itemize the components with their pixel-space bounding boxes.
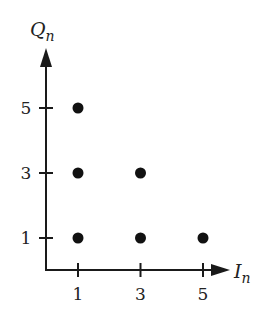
data-point <box>198 233 209 244</box>
y-tick-label: 5 <box>21 98 32 118</box>
data-point <box>135 233 146 244</box>
data-point <box>135 168 146 179</box>
y-axis-arrow <box>40 48 52 67</box>
data-points <box>73 103 209 244</box>
y-tick-label: 1 <box>21 228 32 248</box>
y-axis-label: Qn <box>30 18 55 44</box>
data-point <box>73 233 84 244</box>
y-tick-label: 3 <box>21 163 32 183</box>
x-axis-label: In <box>233 260 251 286</box>
scatter-chart: 135 135 Qn In <box>0 0 259 313</box>
x-tick-label: 3 <box>135 284 146 304</box>
x-tick-label: 1 <box>73 284 84 304</box>
data-point <box>73 103 84 114</box>
x-axis-arrow <box>211 264 230 276</box>
data-point <box>73 168 84 179</box>
x-tick-label: 5 <box>198 284 209 304</box>
y-ticks: 135 <box>21 98 53 248</box>
